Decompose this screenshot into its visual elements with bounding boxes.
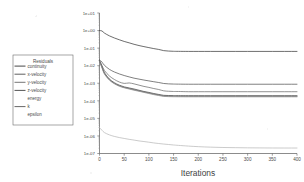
- legend-label-epsilon: epsilon: [28, 112, 43, 117]
- residuals-figure: Residuals continuityx-velocityy-velocity…: [0, 0, 304, 182]
- y-tick-label: 1e-03: [84, 81, 96, 86]
- y-tick-label: 1e-04: [84, 99, 96, 104]
- legend-label-y-velocity: y-velocity: [28, 80, 48, 85]
- legend-label-continuity: continuity: [28, 64, 48, 69]
- legend-label-x-velocity: x-velocity: [28, 72, 48, 77]
- y-tick-label: 1e+00: [83, 28, 96, 33]
- x-tick-label: 250: [219, 157, 227, 162]
- y-tick-label: 1e-07: [84, 151, 96, 156]
- y-tick-label: 1e+01: [83, 11, 96, 16]
- y-tick-label: 1e-05: [84, 116, 96, 121]
- x-axis-label: Iterations: [181, 168, 215, 178]
- x-tick-label: 400: [293, 157, 301, 162]
- x-tick-label: 0: [98, 157, 101, 162]
- x-tick-label: 200: [194, 157, 202, 162]
- y-tick-label: 1e-06: [84, 134, 96, 139]
- x-tick-label: 50: [122, 157, 128, 162]
- x-tick-label: 100: [145, 157, 153, 162]
- legend-label-z-velocity: z-velocity: [28, 88, 48, 93]
- x-tick-label: 300: [244, 157, 252, 162]
- legend-label-energy: energy: [28, 96, 43, 101]
- x-tick-label: 350: [268, 157, 276, 162]
- legend: Residuals continuityx-velocityy-velocity…: [13, 55, 73, 125]
- y-tick-label: 1e-02: [84, 63, 96, 68]
- x-tick-label: 150: [170, 157, 178, 162]
- y-tick-label: 1e-01: [84, 46, 96, 51]
